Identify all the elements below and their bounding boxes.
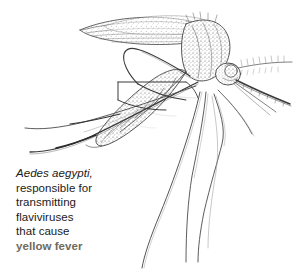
head-group xyxy=(216,63,241,85)
caption-species-name: Aedes aegypti, xyxy=(16,166,146,181)
caption-line-4: flaviviruses xyxy=(16,210,146,225)
caption-line-3: transmitting xyxy=(16,195,146,210)
caption-highlight-disease: yellow fever xyxy=(16,239,146,254)
compound-eye xyxy=(225,65,237,77)
antenna-group xyxy=(238,56,292,75)
proboscis-group xyxy=(234,80,291,115)
caption-line-2: responsible for xyxy=(16,181,146,196)
figure-caption: Aedes aegypti, responsible for transmitt… xyxy=(16,166,146,254)
abdomen-group xyxy=(86,69,186,147)
figure-panel: Aedes aegypti, responsible for transmitt… xyxy=(0,0,296,274)
caption-line-5: that cause xyxy=(16,224,146,239)
